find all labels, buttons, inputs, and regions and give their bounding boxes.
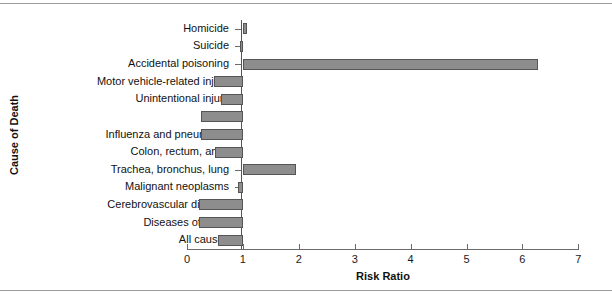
y-axis-title: Cause of Death <box>8 95 20 175</box>
bar <box>243 59 538 70</box>
x-axis-tick <box>467 244 468 250</box>
bar-chart-plot-area: 01234567 HomicideSuicideAccidental poiso… <box>0 0 612 302</box>
bar <box>201 129 243 140</box>
y-axis-tick <box>235 170 241 171</box>
x-axis-tick-label: 5 <box>455 253 479 265</box>
bar <box>214 76 243 87</box>
x-axis-tick-label: 2 <box>287 253 311 265</box>
category-label-text: Unintentional injury <box>135 92 229 104</box>
bar <box>199 217 243 228</box>
x-axis-line <box>187 249 579 250</box>
category-label-text: Suicide <box>193 39 229 51</box>
category-label-text: Motor vehicle-related injury <box>97 75 229 87</box>
x-axis-tick-label: 6 <box>510 253 534 265</box>
bar <box>218 235 243 246</box>
x-axis-tick <box>578 244 579 250</box>
x-axis-tick-label: 3 <box>343 253 367 265</box>
y-axis-tick <box>235 29 241 30</box>
bar <box>199 199 243 210</box>
category-label-text: Homicide <box>183 22 229 34</box>
chart-page: 01234567 HomicideSuicideAccidental poiso… <box>0 0 612 302</box>
bar <box>238 182 242 193</box>
bar <box>240 41 243 52</box>
x-axis-tick-label: 1 <box>231 253 255 265</box>
category-label-text: Malignant neoplasms <box>125 180 229 192</box>
x-axis-tick <box>411 244 412 250</box>
bar <box>215 147 243 158</box>
bar <box>201 111 243 122</box>
x-axis-tick-label: 7 <box>566 253 590 265</box>
category-label-text: Trachea, bronchus, lung <box>111 163 229 175</box>
x-axis-tick <box>522 244 523 250</box>
x-axis-tick-label: 0 <box>175 253 199 265</box>
x-axis-tick <box>243 244 244 250</box>
bar <box>221 94 243 105</box>
bar <box>243 164 296 175</box>
category-label-text: Accidental poisoning <box>128 57 229 69</box>
x-axis-title: Risk Ratio <box>187 270 579 282</box>
x-axis-tick <box>355 244 356 250</box>
y-axis-tick <box>235 64 241 65</box>
x-axis-tick <box>299 244 300 250</box>
x-axis-tick-label: 4 <box>399 253 423 265</box>
bar <box>243 23 247 34</box>
